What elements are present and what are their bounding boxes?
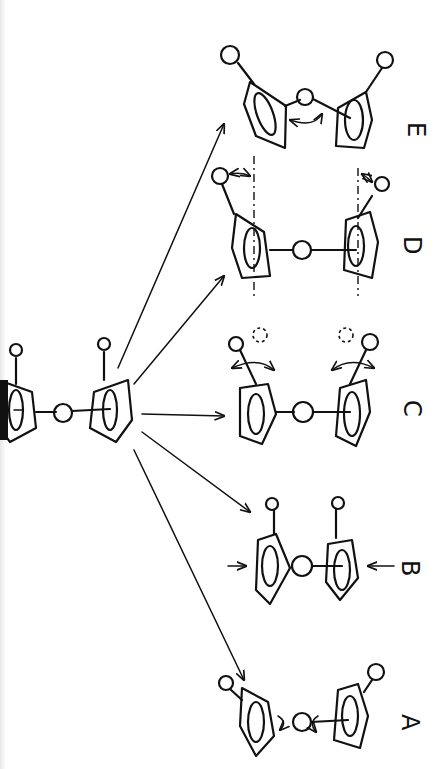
arrow-to-D — [134, 276, 224, 384]
diagram-svg: E D — [0, 0, 448, 769]
variant-D: D — [212, 156, 426, 296]
variant-C: C — [229, 328, 426, 446]
variant-A: A — [219, 664, 424, 756]
label-E: E — [402, 122, 430, 137]
label-D: D — [398, 236, 426, 254]
arrow-to-E — [118, 124, 224, 368]
label-A: A — [396, 714, 424, 731]
label-C: C — [398, 400, 426, 417]
scan-shadow — [0, 380, 8, 440]
label-B: B — [396, 560, 424, 576]
parent-structure — [0, 338, 132, 442]
variant-E: E — [221, 46, 430, 148]
arrow-to-A — [134, 450, 244, 680]
diagram-canvas: E D — [0, 0, 448, 769]
arrow-to-C — [142, 414, 224, 416]
variant-B: B — [228, 497, 424, 604]
